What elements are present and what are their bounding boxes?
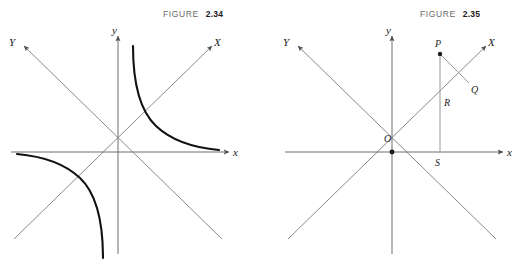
figure-drawing-2-34: Y X y x xyxy=(0,0,257,265)
segment-P-Q xyxy=(440,54,469,83)
axis-label-X: X xyxy=(213,36,222,48)
point-label-O: O xyxy=(384,133,391,144)
point-P-dot xyxy=(438,52,442,56)
figure-panel-2-34: FIGURE2.34 Y xyxy=(0,0,257,265)
point-label-R: R xyxy=(443,97,450,108)
point-label-P: P xyxy=(434,38,441,49)
axis-label-x: x xyxy=(232,146,238,158)
figure-page: FIGURE2.34 Y xyxy=(0,0,515,265)
point-label-Q: Q xyxy=(471,84,479,95)
axis-label-Y: Y xyxy=(283,36,291,48)
rotated-Y-axis-line xyxy=(24,46,222,239)
axis-label-Y: Y xyxy=(9,36,17,48)
axis-label-y: y xyxy=(385,24,391,36)
hyperbola-branch-lower-left xyxy=(17,154,103,258)
rotated-Y-axis-line xyxy=(298,46,496,239)
axis-label-x: x xyxy=(506,146,512,158)
axis-label-y: y xyxy=(111,24,117,36)
axis-label-X: X xyxy=(487,36,496,48)
hyperbola-branch-upper-right xyxy=(133,46,219,150)
point-O-dot xyxy=(390,150,395,155)
point-label-S: S xyxy=(435,157,440,168)
figure-drawing-2-35: O P Q R S Y X y x xyxy=(258,0,515,265)
figure-panel-2-35: FIGURE2.35 xyxy=(258,0,515,265)
